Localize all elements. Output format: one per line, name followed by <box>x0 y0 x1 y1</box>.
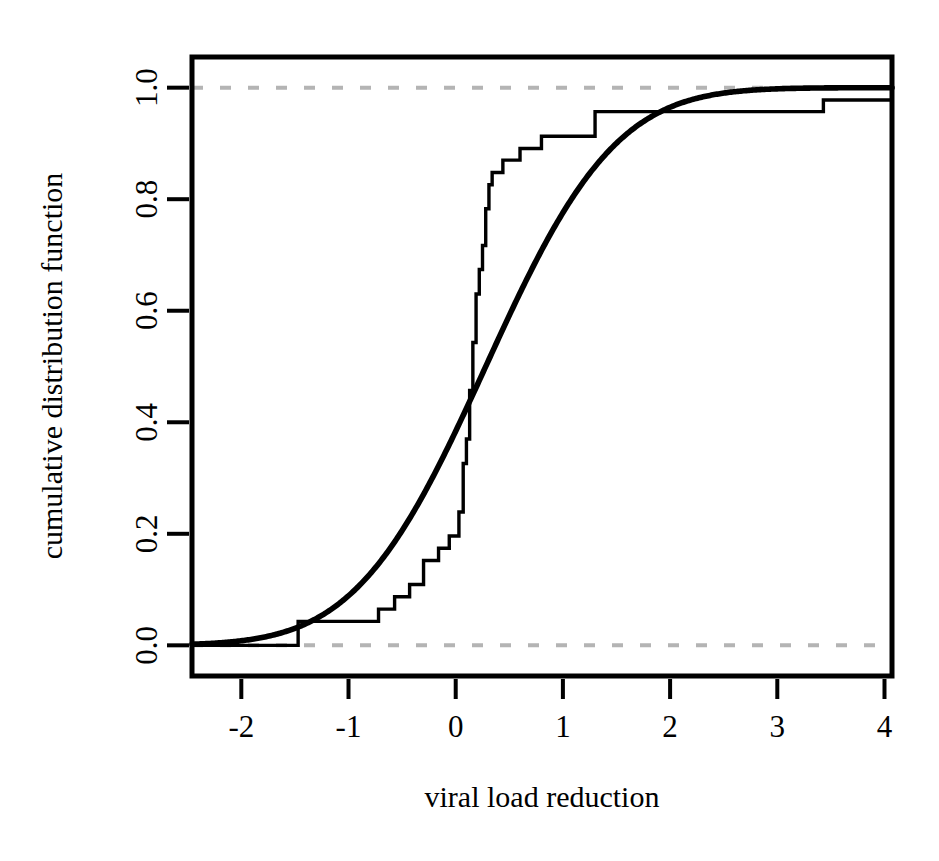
cdf-plot: -2-101234 0.00.20.40.60.81.0 viral load … <box>0 0 939 861</box>
x-tick-label: 4 <box>877 709 893 744</box>
y-tick-label: 0.2 <box>130 514 165 553</box>
y-tick-label: 1.0 <box>130 68 165 107</box>
y-axis-title: cumulative distribution function <box>35 173 68 560</box>
figure-container: -2-101234 0.00.20.40.60.81.0 viral load … <box>0 0 939 861</box>
y-tick-label: 0.0 <box>130 626 165 665</box>
x-tick-label: 0 <box>448 709 464 744</box>
x-axis-ticks <box>241 679 884 699</box>
x-axis-tick-labels: -2-101234 <box>228 709 892 744</box>
y-axis-ticks <box>167 88 189 646</box>
x-tick-label: 2 <box>662 709 678 744</box>
x-tick-label: -1 <box>336 709 362 744</box>
x-tick-label: 3 <box>770 709 786 744</box>
y-tick-label: 0.4 <box>130 402 165 441</box>
x-tick-label: 1 <box>555 709 571 744</box>
y-axis-tick-labels: 0.00.20.40.60.81.0 <box>130 68 165 664</box>
y-tick-label: 0.6 <box>130 291 165 330</box>
x-tick-label: -2 <box>228 709 254 744</box>
x-axis-title: viral load reduction <box>425 780 660 813</box>
y-tick-label: 0.8 <box>130 180 165 219</box>
